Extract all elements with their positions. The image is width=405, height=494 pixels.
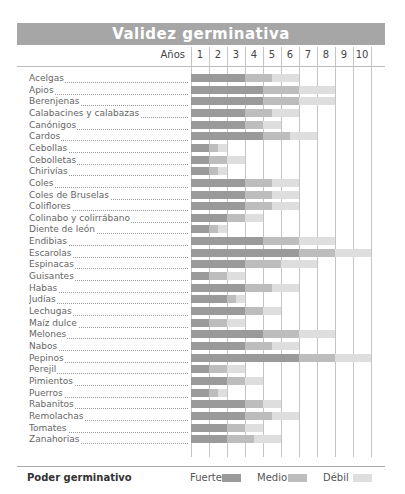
row-label: Coles de Bruselas [29,190,189,201]
bar-segment-light [263,307,281,315]
bar-segment-dark [191,354,299,362]
chart-row: Guisantes [0,271,405,282]
chart-row: Colinabo y colirrábano [0,213,405,224]
chart-row: Coliflores [0,201,405,212]
chart-row: Espinacas [0,259,405,270]
bar-segment-light [218,225,227,233]
row-label: Endibias [29,236,189,247]
row-label: Zanahorias [29,434,189,445]
bar-segment-med [209,156,227,164]
bar-segment-light [227,156,245,164]
row-label: Escarolas [29,248,189,259]
legend-label-fuerte: Fuerte [190,472,222,483]
bar-segment-med [245,191,272,199]
row-label: Guisantes [29,271,189,282]
bar-segment-med [245,74,272,82]
bar-segment-dark [191,319,209,327]
bar-segment-light [254,435,281,443]
row-label: Acelgas [29,73,189,84]
bar-segment-dark [191,249,299,257]
row-label: Maíz dulce [29,318,189,329]
bar-segment-dark [191,179,245,187]
row-label: Calabacines y calabazas [29,108,189,119]
bar-segment-dark [191,86,263,94]
row-label: Remolachas [29,411,189,422]
chart-row: Escarolas [0,248,405,259]
bar-segment-light [272,109,299,117]
chart-row: Coles de Bruselas [0,190,405,201]
bar-segment-dark [191,167,209,175]
chart-row: Diente de león [0,224,405,235]
row-label: Tomates [29,423,189,434]
bar-segment-light [290,132,317,140]
bar-segment-light [263,400,281,408]
bar-segment-light [299,237,335,245]
chart-row: Maíz dulce [0,318,405,329]
chart-row: Puerros [0,388,405,399]
bar-segment-med [263,86,299,94]
legend-divider [17,466,385,467]
bar-segment-dark [191,272,209,280]
legend-swatch-medio [288,474,307,482]
bar-segment-dark [191,237,263,245]
bar-segment-med [209,319,227,327]
bar-segment-med [227,435,254,443]
chart-row: Cebollas [0,143,405,154]
legend-swatch-fuerte [222,474,241,482]
bar-segment-dark [191,144,209,152]
bar-segment-dark [191,260,245,268]
row-label: Coliflores [29,201,189,212]
row-label: Espinacas [29,259,189,270]
chart-row: Lechugas [0,306,405,317]
year-tick: 2 [209,49,227,60]
bar-segment-dark [191,284,245,292]
chart-row: Berenjenas [0,96,405,107]
bar-segment-dark [191,435,227,443]
chart-row: Acelgas [0,73,405,84]
bar-segment-light [281,260,317,268]
chart-row: Nabos [0,341,405,352]
chart-row: Judías [0,294,405,305]
chart-row: Rabanitos [0,399,405,410]
bar-segment-light [245,377,263,385]
bar-segment-light [218,144,227,152]
bar-segment-dark [191,400,245,408]
bar-segment-med [227,214,245,222]
bar-segment-light [227,365,245,373]
chart-row: Pepinos [0,353,405,364]
bar-segment-light [335,249,371,257]
year-tick: 4 [245,49,263,60]
bar-segment-dark [191,121,245,129]
legend-swatch-debil [353,474,372,482]
bar-segment-med [263,237,299,245]
bar-segment-light [218,167,227,175]
bar-segment-med [227,377,245,385]
bar-segment-dark [191,109,245,117]
bar-segment-med [263,330,299,338]
bar-segment-med [245,121,263,129]
bar-segment-dark [191,191,245,199]
bar-segment-light [245,424,263,432]
bar-segment-light [272,342,299,350]
chart-row: Endibias [0,236,405,247]
bar-segment-dark [191,295,227,303]
bar-segment-dark [191,342,245,350]
chart-row: Canónigos [0,120,405,131]
row-label: Lechugas [29,306,189,317]
bar-segment-med [209,272,227,280]
year-tick: 6 [281,49,299,60]
chart-row: Cebolletas [0,155,405,166]
bar-segment-med [245,202,272,210]
row-label: Rabanitos [29,399,189,410]
bar-segment-dark [191,97,263,105]
bar-segment-med [245,260,281,268]
bar-segment-dark [191,424,227,432]
year-tick: 3 [227,49,245,60]
chart-row: Apios [0,85,405,96]
legend: Poder germinativo Fuerte Medio Débil [0,472,405,486]
row-label: Cardos [29,131,189,142]
row-label: Colinabo y colirrábano [29,213,189,224]
bar-segment-light [218,389,227,397]
row-label: Cebolletas [29,155,189,166]
bar-segment-light [335,354,371,362]
